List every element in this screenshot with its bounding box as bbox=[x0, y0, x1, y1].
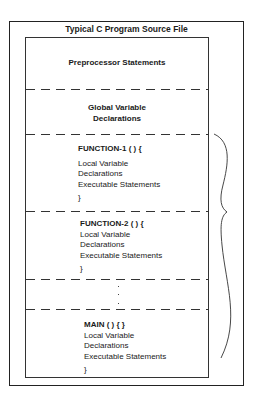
functions-curly-brace bbox=[0, 0, 257, 395]
